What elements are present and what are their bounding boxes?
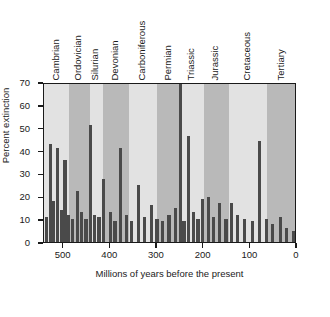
x-tick-label: 100 bbox=[241, 250, 257, 260]
x-tick-label: 400 bbox=[101, 250, 117, 260]
x-tick-mark bbox=[295, 243, 297, 248]
x-tick-mark bbox=[202, 243, 204, 248]
x-tick-label: 300 bbox=[148, 250, 164, 260]
x-tick-mark bbox=[249, 243, 251, 248]
x-tick-label: 0 bbox=[293, 250, 298, 260]
x-axis-label: Millions of years before the present bbox=[43, 268, 296, 279]
x-tick-mark bbox=[62, 243, 64, 248]
extinction-bar-chart: CambrianOrdovicianSilurianDevonianCarbon… bbox=[0, 0, 330, 317]
x-tick-label: 500 bbox=[55, 250, 71, 260]
x-tick-label: 200 bbox=[195, 250, 211, 260]
x-tick-mark bbox=[155, 243, 157, 248]
x-tick-mark bbox=[109, 243, 111, 248]
